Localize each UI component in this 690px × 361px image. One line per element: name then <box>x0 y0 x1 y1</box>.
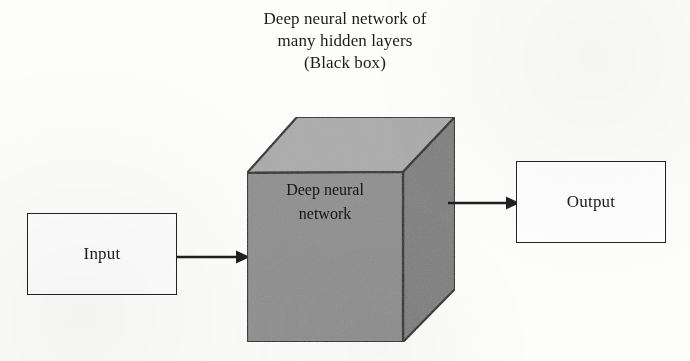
figure-title-line-3: (Black box) <box>0 52 690 74</box>
figure-title-line-2: many hidden layers <box>0 30 690 52</box>
figure-title: Deep neural network of many hidden layer… <box>0 8 690 74</box>
output-box: Output <box>516 161 666 243</box>
black-box-cube <box>240 110 462 350</box>
input-box-label: Input <box>84 244 121 264</box>
output-box-label: Output <box>567 192 615 212</box>
arrow-input-to-network <box>176 247 250 267</box>
figure-title-line-1: Deep neural network of <box>0 8 690 30</box>
diagram-canvas: Deep neural network of many hidden layer… <box>0 0 690 361</box>
arrow-network-to-output <box>448 193 520 213</box>
cube-front-face <box>247 172 403 342</box>
input-box: Input <box>27 213 177 295</box>
